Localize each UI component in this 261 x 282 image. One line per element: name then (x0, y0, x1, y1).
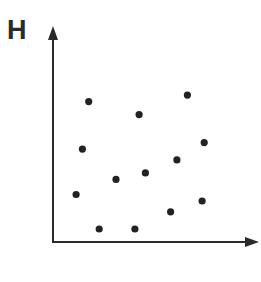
data-point (201, 139, 208, 146)
y-axis-arrow-icon (48, 26, 58, 40)
data-point (184, 92, 191, 99)
data-point (73, 191, 80, 198)
data-point (199, 197, 206, 204)
data-point (79, 146, 86, 153)
data-point (142, 169, 149, 176)
data-point (173, 156, 180, 163)
data-point (167, 208, 174, 215)
data-point (136, 111, 143, 118)
data-points (73, 92, 208, 233)
data-point (131, 225, 138, 232)
axes (48, 26, 259, 247)
plot-area (0, 0, 261, 282)
scatter-chart: H (0, 0, 261, 282)
data-point (96, 225, 103, 232)
data-point (85, 98, 92, 105)
data-point (112, 176, 119, 183)
x-axis-arrow-icon (245, 237, 259, 247)
